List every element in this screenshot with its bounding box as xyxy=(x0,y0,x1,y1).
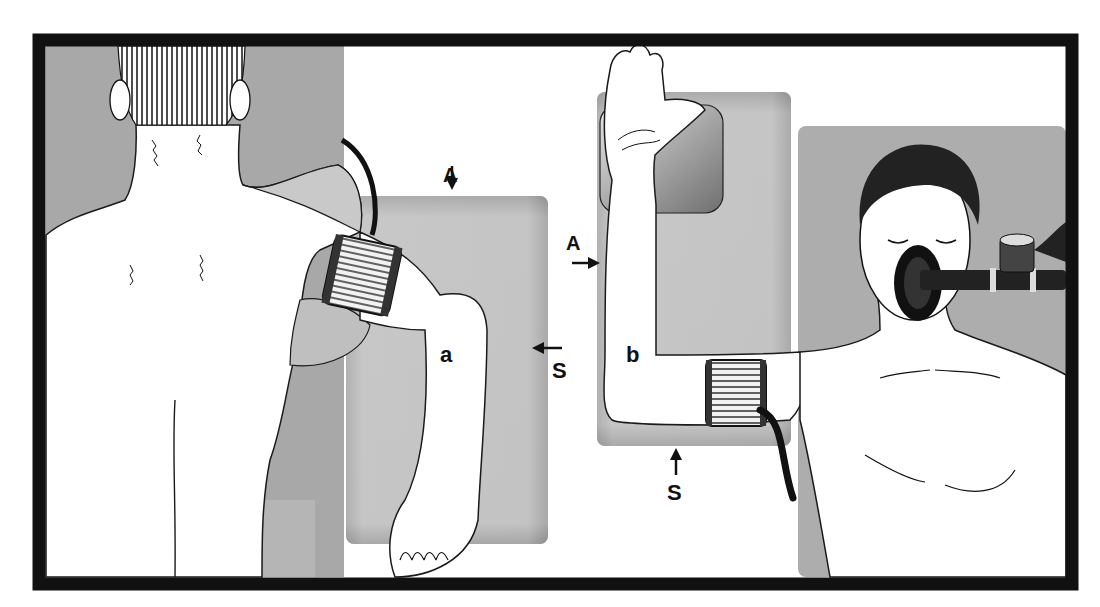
bp-cuff-a xyxy=(321,234,402,317)
ear-right xyxy=(230,80,250,120)
patient-head-hair xyxy=(118,46,245,125)
arrow-label-b-superior: S xyxy=(667,480,682,505)
bp-cuff-b xyxy=(706,360,766,426)
panel-label-b: b xyxy=(626,342,639,367)
arrow-label-b-anterior: A xyxy=(566,232,580,254)
medical-illustration: a A S xyxy=(0,0,1100,607)
arrow-label-a-superior: S xyxy=(552,358,567,383)
panel-label-a: a xyxy=(440,342,453,367)
ear-left xyxy=(110,80,130,120)
